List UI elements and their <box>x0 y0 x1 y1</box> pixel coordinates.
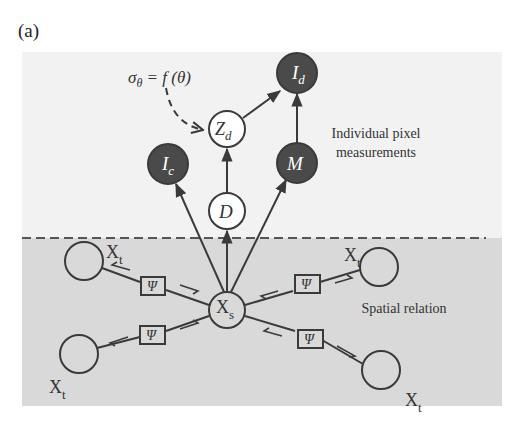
svg-text:Ψ: Ψ <box>146 328 157 343</box>
node-Xs: Xs <box>209 292 245 328</box>
upper-region <box>22 52 502 238</box>
graphical-model-diagram: Id Zd Ic M D Xs Xt Xt Xt Xt Ψ Ψ Ψ Ψ σθ =… <box>0 0 524 428</box>
node-D: D <box>209 193 245 229</box>
svg-text:M: M <box>286 153 304 174</box>
upper-region-label: Individual pixel <box>331 126 420 141</box>
svg-text:Ψ: Ψ <box>301 277 312 292</box>
node-Id: Id <box>277 53 317 93</box>
svg-text:Ψ: Ψ <box>304 332 315 347</box>
node-Ic: Ic <box>148 144 188 184</box>
upper-region-label-2: measurements <box>336 145 416 160</box>
svg-text:Ψ: Ψ <box>147 279 158 294</box>
svg-text:D: D <box>218 201 233 222</box>
node-Zd: Zd <box>209 111 245 147</box>
node-M: M <box>277 143 317 183</box>
lower-region-label: Spatial relation <box>361 301 446 316</box>
